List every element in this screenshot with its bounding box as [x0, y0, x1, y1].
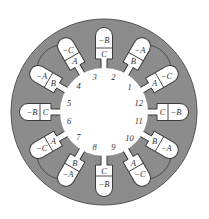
- coil-side-inner-label: B: [131, 56, 136, 66]
- slot-number: 3: [92, 72, 97, 82]
- coil-side-inner-label: C: [101, 49, 107, 59]
- slot-number: 5: [67, 98, 71, 108]
- slot-number: 7: [76, 132, 81, 142]
- coil-side-inner-label: B: [152, 136, 157, 146]
- slot-number: 11: [135, 116, 143, 126]
- coil-side-inner-label: B: [51, 78, 56, 88]
- slot-number: 9: [111, 142, 116, 152]
- coil-side-outer-label: −B: [171, 107, 182, 117]
- coil-side-outer-label: −C: [161, 71, 173, 81]
- slot-number: 2: [111, 72, 116, 82]
- slot-number: 6: [67, 116, 72, 126]
- slot-number: 4: [76, 81, 81, 91]
- coil-side-inner-label: C: [160, 107, 166, 117]
- stator-diagram: A−CB−AC−BA−CB−AC−BA−CB−AC−BA−CB−AC−B 123…: [0, 0, 209, 219]
- coil-side-outer-label: −B: [27, 107, 38, 117]
- coil-side-inner-label: C: [43, 107, 49, 117]
- coil-side-outer-label: −A: [36, 71, 48, 81]
- coil-side-inner-label: A: [151, 78, 158, 88]
- coil-side-inner-label: A: [71, 56, 78, 66]
- coil-side-outer-label: −A: [135, 45, 147, 55]
- coil-side-outer-label: −B: [99, 179, 110, 189]
- coil-side-outer-label: −C: [134, 169, 146, 179]
- coil-side-outer-label: −C: [36, 143, 48, 153]
- coil-side-outer-label: −C: [62, 45, 74, 55]
- slot-number: 1: [127, 82, 131, 92]
- coil-side-outer-label: −B: [99, 35, 110, 45]
- rotor-bore: [60, 68, 148, 156]
- coil-side-outer-label: −A: [63, 169, 75, 179]
- coil-side-inner-label: A: [130, 158, 137, 168]
- slot-number: 10: [125, 133, 134, 143]
- slot-number: 12: [135, 98, 144, 108]
- coil-side-outer-label: −A: [161, 143, 173, 153]
- coil-side-inner-label: C: [101, 166, 107, 176]
- slot-number: 8: [92, 142, 97, 152]
- coil-side-inner-label: B: [72, 158, 77, 168]
- coil-side-inner-label: A: [50, 136, 57, 146]
